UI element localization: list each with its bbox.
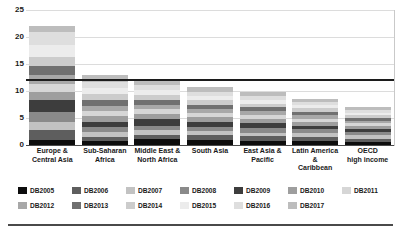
bar-segment	[29, 45, 75, 57]
plot-right-border	[394, 10, 395, 146]
bar-column	[187, 10, 233, 145]
legend-item-db2014[interactable]: DB2014	[126, 202, 180, 209]
legend-label: DB2006	[84, 187, 108, 194]
legend: DB2005DB2006DB2007DB2008DB2009DB2010DB20…	[0, 183, 401, 217]
x-axis-category-label: Sub-Saharan Africa	[79, 147, 131, 173]
bar-segment	[29, 32, 75, 45]
stacked-bar	[82, 75, 128, 145]
stacked-bar	[29, 26, 75, 145]
legend-label: DB2010	[300, 187, 324, 194]
legend-item-db2010[interactable]: DB2010	[288, 187, 342, 194]
legend-label: DB2011	[354, 187, 378, 194]
x-axis-category-label: Latin America & Caribbean	[289, 147, 341, 173]
legend-label: DB2008	[192, 187, 216, 194]
legend-swatch-icon	[72, 187, 81, 194]
stacked-bar	[292, 99, 338, 145]
stacked-bar	[187, 87, 233, 145]
y-axis-tick-label: 20	[2, 33, 24, 41]
bar-column	[134, 10, 180, 145]
legend-label: DB2015	[192, 202, 216, 209]
x-axis-category-label: East Asia & Pacific	[237, 147, 289, 173]
legend-swatch-icon	[18, 187, 27, 194]
x-axis-category-label: South Asia	[184, 147, 236, 173]
legend-label: DB2007	[138, 187, 162, 194]
chart-container: 0510152025 Europe & Central AsiaSub-Saha…	[0, 0, 401, 233]
legend-swatch-icon	[18, 202, 27, 209]
legend-swatch-icon	[342, 187, 351, 194]
legend-swatch-icon	[180, 202, 189, 209]
bar-segment	[29, 66, 75, 75]
legend-swatch-icon	[126, 202, 135, 209]
legend-label: DB2005	[30, 187, 54, 194]
legend-item-db2011[interactable]: DB2011	[342, 187, 396, 194]
legend-label: DB2016	[246, 202, 270, 209]
bar-segment	[29, 57, 75, 66]
legend-item-db2013[interactable]: DB2013	[72, 202, 126, 209]
bar-segment	[29, 112, 75, 122]
legend-item-db2016[interactable]: DB2016	[234, 202, 288, 209]
bar-column	[240, 10, 286, 145]
legend-swatch-icon	[288, 202, 297, 209]
legend-item-db2015[interactable]: DB2015	[180, 202, 234, 209]
x-axis-category-label: Middle East & North Africa	[131, 147, 183, 173]
legend-item-db2006[interactable]: DB2006	[72, 187, 126, 194]
legend-label: DB2009	[246, 187, 270, 194]
stacked-bar	[134, 80, 180, 145]
y-axis-tick-label: 0	[2, 141, 24, 149]
legend-swatch-icon	[180, 187, 189, 194]
bar-segment	[29, 122, 75, 131]
legend-row: DB2012DB2013DB2014DB2015DB2016DB2017	[0, 198, 401, 213]
x-axis-category-labels: Europe & Central AsiaSub-Saharan AfricaM…	[26, 147, 394, 173]
legend-item-db2009[interactable]: DB2009	[234, 187, 288, 194]
x-axis-line	[26, 145, 394, 146]
bar-column	[29, 10, 75, 145]
y-axis-tick-labels: 0510152025	[0, 0, 24, 135]
legend-item-db2007[interactable]: DB2007	[126, 187, 180, 194]
bar-segment	[29, 130, 75, 139]
bar-group	[26, 10, 394, 145]
legend-row: DB2005DB2006DB2007DB2008DB2009DB2010DB20…	[0, 183, 401, 198]
y-axis-tick-label: 25	[2, 6, 24, 14]
legend-swatch-icon	[126, 187, 135, 194]
y-axis-tick-label: 10	[2, 87, 24, 95]
bar-column	[82, 10, 128, 145]
bar-column	[292, 10, 338, 145]
legend-swatch-icon	[288, 187, 297, 194]
legend-item-db2017[interactable]: DB2017	[288, 202, 342, 209]
legend-swatch-icon	[234, 202, 243, 209]
reference-line	[26, 79, 394, 81]
x-axis-category-label: Europe & Central Asia	[26, 147, 78, 173]
plot-area: 0510152025 Europe & Central AsiaSub-Saha…	[0, 0, 401, 185]
y-axis-tick-label: 5	[2, 114, 24, 122]
bottom-rule	[8, 224, 393, 226]
bar-segment	[29, 92, 75, 101]
legend-swatch-icon	[72, 202, 81, 209]
y-axis-tick-label: 15	[2, 60, 24, 68]
legend-item-db2005[interactable]: DB2005	[18, 187, 72, 194]
legend-item-db2012[interactable]: DB2012	[18, 202, 72, 209]
bar-segment	[29, 100, 75, 112]
legend-label: DB2017	[300, 202, 324, 209]
legend-item-db2008[interactable]: DB2008	[180, 187, 234, 194]
legend-label: DB2014	[138, 202, 162, 209]
legend-label: DB2012	[30, 202, 54, 209]
bar-segment	[29, 84, 75, 92]
legend-label: DB2013	[84, 202, 108, 209]
stacked-bar	[345, 107, 391, 145]
legend-swatch-icon	[234, 187, 243, 194]
stacked-bar	[240, 92, 286, 145]
bar-column	[345, 10, 391, 145]
x-axis-category-label: OECD high income	[342, 147, 394, 173]
